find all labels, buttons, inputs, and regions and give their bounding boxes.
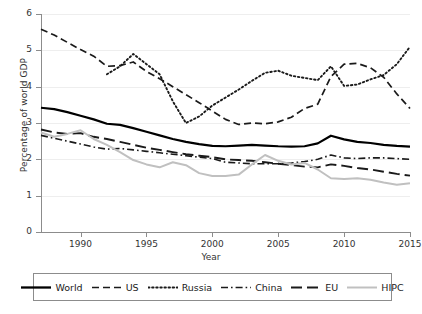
legend-swatch-us <box>92 282 122 293</box>
x-tick-label: 1990 <box>61 239 101 249</box>
legend-item-us[interactable]: US <box>92 282 139 293</box>
legend-swatch-world <box>21 282 51 293</box>
legend-item-eu[interactable]: EU <box>291 282 338 293</box>
x-tick <box>410 232 411 237</box>
plot-area: 0123456 199019952000200520102015 <box>41 14 410 232</box>
legend-item-world[interactable]: World <box>21 282 82 293</box>
legend-item-china[interactable]: China <box>221 282 282 293</box>
series-line-russia <box>107 47 410 123</box>
x-tick <box>344 232 345 237</box>
legend-label: Russia <box>182 282 213 293</box>
legend-item-russia[interactable]: Russia <box>148 282 213 293</box>
y-tick-label: 4 <box>10 81 32 91</box>
x-tick-label: 2000 <box>192 239 232 249</box>
x-axis-line <box>41 232 410 233</box>
series-line-us <box>41 29 410 124</box>
legend-label: HIPC <box>381 282 403 293</box>
legend-swatch-eu <box>291 282 321 293</box>
x-tick-label: 2010 <box>324 239 364 249</box>
x-axis-title: Year <box>0 252 422 262</box>
y-tick-label: 6 <box>10 8 32 18</box>
y-tick <box>36 232 41 233</box>
chart-figure: Percentage of world GDP 0123456 19901995… <box>0 0 422 314</box>
y-tick-label: 0 <box>10 226 32 236</box>
x-tick-label: 2005 <box>258 239 298 249</box>
data-series-lines <box>41 14 410 232</box>
legend-label: EU <box>325 282 338 293</box>
legend-item-hipc[interactable]: HIPC <box>347 282 403 293</box>
x-tick-label: 1995 <box>126 239 166 249</box>
y-tick-label: 5 <box>10 44 32 54</box>
legend-label: US <box>126 282 139 293</box>
legend-swatch-china <box>221 282 251 293</box>
legend-label: China <box>255 282 282 293</box>
legend-swatch-russia <box>148 282 178 293</box>
legend-label: World <box>55 282 82 293</box>
legend-swatch-hipc <box>347 282 377 293</box>
chart-legend: WorldUSRussiaChinaEUHIPC <box>33 273 392 301</box>
x-tick-label: 2015 <box>390 239 422 249</box>
series-line-hipc <box>41 130 410 185</box>
y-tick-label: 2 <box>10 153 32 163</box>
x-tick <box>212 232 213 237</box>
x-tick <box>81 232 82 237</box>
y-tick-label: 1 <box>10 190 32 200</box>
x-tick <box>146 232 147 237</box>
x-tick <box>278 232 279 237</box>
y-tick-label: 3 <box>10 117 32 127</box>
series-line-eu <box>41 130 410 176</box>
